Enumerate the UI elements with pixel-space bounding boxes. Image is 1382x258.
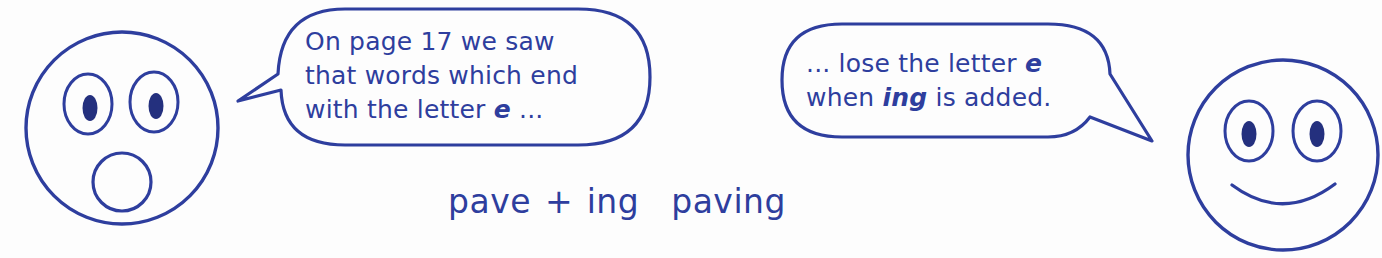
equation-plus-operator: +: [531, 181, 587, 223]
speech-bubble-one-shape: [238, 9, 650, 145]
word-equation: pave+ingpaving: [448, 181, 786, 223]
speech-bubble-one: [238, 9, 650, 145]
equation-base-word: pave: [448, 182, 531, 221]
smiling-right-eye-pupil: [1310, 121, 1325, 147]
smiling-left-eye-pupil: [1242, 121, 1257, 147]
equation-suffix: ing: [587, 182, 640, 221]
worksheet-illustration: On page 17 we saw that words which end w…: [0, 0, 1382, 258]
surprised-mouth: [93, 153, 151, 211]
speech-bubble-two: [782, 24, 1152, 141]
surprised-face: [26, 32, 218, 224]
speech-bubble-two-shape: [782, 24, 1152, 141]
right-eye-pupil: [149, 93, 164, 119]
left-eye-pupil: [83, 95, 98, 121]
